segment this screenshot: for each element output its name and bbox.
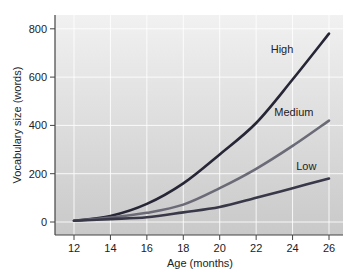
y-tick-label: 200 <box>29 168 47 180</box>
series-label-low: Low <box>296 160 316 172</box>
series-label-high: High <box>271 43 294 55</box>
x-tick-label: 14 <box>104 242 116 254</box>
y-tick-label: 400 <box>29 119 47 131</box>
x-axis-label: Age (months) <box>167 257 233 269</box>
y-axis-label: Vocabulary size (words) <box>11 67 23 184</box>
x-tick-label: 16 <box>141 242 153 254</box>
x-tick-label: 22 <box>250 242 262 254</box>
chart-canvas: 02004006008001214161820222426 HighMedium… <box>0 0 357 279</box>
x-tick-label: 12 <box>68 242 80 254</box>
y-tick-label: 800 <box>29 23 47 35</box>
series-label-medium: Medium <box>274 106 313 118</box>
y-tick-label: 600 <box>29 71 47 83</box>
x-tick-label: 24 <box>286 242 298 254</box>
x-tick-label: 18 <box>177 242 189 254</box>
x-tick-label: 26 <box>323 242 335 254</box>
y-tick-label: 0 <box>41 216 47 228</box>
vocabulary-growth-chart: 02004006008001214161820222426 HighMedium… <box>0 0 357 279</box>
x-tick-label: 20 <box>214 242 226 254</box>
